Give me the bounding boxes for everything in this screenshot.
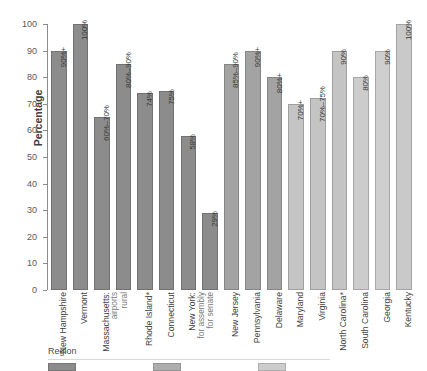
legend: Region: [48, 346, 348, 359]
y-axis-tick: 70: [43, 104, 47, 105]
x-axis-label: New Jersey: [231, 292, 240, 337]
legend-title: Region: [48, 346, 348, 356]
y-axis-tick: 60: [43, 130, 47, 131]
x-axis-label: Georgia: [383, 292, 392, 323]
bar-value-label: 70%–75%: [318, 87, 327, 123]
bar-value-label: 90%: [383, 49, 392, 65]
bar[interactable]: 90%+: [245, 51, 261, 290]
bar-value-label: 74%: [145, 91, 154, 107]
x-axis-label-slot: Georgia: [372, 292, 394, 356]
bar-value-label: 80%–90%: [124, 52, 133, 88]
y-axis-tick-label: 20: [27, 232, 37, 242]
bar-value-label: 80%: [361, 75, 370, 91]
bar-slot: 80%–90%: [113, 24, 135, 290]
legend-divider: [48, 359, 330, 360]
y-axis-tick-label: 60: [27, 125, 37, 135]
bar-slot: 58%: [178, 24, 200, 290]
y-axis-tick-label: 30: [27, 205, 37, 215]
bar[interactable]: 80%–90%: [116, 64, 132, 290]
bar-slot: 90%+: [242, 24, 264, 290]
bar[interactable]: 90%: [375, 51, 391, 290]
plot-area: 0102030405060708090100 90%+100%60%–70%80…: [47, 24, 415, 290]
bar[interactable]: 90%: [332, 51, 348, 290]
bar[interactable]: 80%+: [267, 77, 283, 290]
legend-item[interactable]: [153, 363, 258, 371]
y-axis-tick-label: 80: [27, 72, 37, 82]
bar[interactable]: 60%–70%: [94, 117, 110, 290]
x-axis-label: Connecticut: [167, 292, 176, 337]
legend-item[interactable]: [48, 363, 153, 371]
bar[interactable]: 75%: [159, 91, 175, 291]
bar[interactable]: 85%–90%: [224, 64, 240, 290]
x-axis-label: North Carolina*: [339, 292, 348, 351]
x-axis-label: Virginia: [318, 292, 327, 321]
bar-slot: 85%–90%: [221, 24, 243, 290]
bar[interactable]: 58%: [181, 136, 197, 290]
x-axis-label: Rhode Island*: [145, 292, 154, 346]
y-axis-tick-label: 50: [27, 152, 37, 162]
bar[interactable]: 29%: [202, 213, 218, 290]
bar-value-label: 90%+: [253, 46, 262, 66]
bar-value-label: 100%: [404, 20, 413, 40]
y-axis-tick-label: 90: [27, 46, 37, 56]
bar-slot: 80%: [350, 24, 372, 290]
legend-swatch: [48, 363, 76, 371]
x-axis-label: Maryland: [296, 292, 305, 327]
bar-slot: 74%: [134, 24, 156, 290]
bar-series: 90%+100%60%–70%80%–90%74%75%58%29%85%–90…: [48, 24, 415, 290]
bar-slot: 60%–70%: [91, 24, 113, 290]
x-axis-label-slot: South Carolina: [350, 292, 372, 356]
bar-value-label: 100%: [80, 20, 89, 40]
legend-items: [48, 363, 363, 371]
y-axis-tick-label: 40: [27, 179, 37, 189]
bar-slot: 70%+: [285, 24, 307, 290]
x-axis-label: Delaware: [275, 292, 284, 328]
bar-value-label: 90%+: [59, 46, 68, 66]
y-axis-tick: 100: [43, 24, 47, 25]
legend-swatch: [258, 363, 286, 371]
bar[interactable]: 90%+: [51, 51, 67, 290]
bar-slot: 90%: [372, 24, 394, 290]
legend-swatch: [153, 363, 181, 371]
y-axis-tick-label: 10: [27, 258, 37, 268]
bar-value-label: 80%+: [275, 73, 284, 93]
bar-slot: 90%+: [48, 24, 70, 290]
bar-slot: 90%: [329, 24, 351, 290]
legend-item[interactable]: [258, 363, 363, 371]
x-axis-label: Kentucky: [404, 292, 413, 327]
bar[interactable]: 100%: [73, 24, 89, 290]
y-axis-tick-label: 0: [32, 285, 37, 295]
bar-value-label: 29%: [210, 211, 219, 227]
y-axis-tick: 80: [43, 77, 47, 78]
bar-slot: 70%–75%: [307, 24, 329, 290]
bar-value-label: 85%–90%: [231, 52, 240, 88]
x-axis-label: Pennsylvania: [253, 292, 262, 343]
bar-slot: 75%: [156, 24, 178, 290]
x-axis-label-slot: Kentucky: [393, 292, 415, 356]
y-axis-tick: 0: [43, 290, 47, 291]
y-axis-tick: 20: [43, 237, 47, 238]
y-axis-tick-label: 100: [22, 19, 37, 29]
bar[interactable]: 74%: [137, 93, 153, 290]
y-axis-tick-label: 70: [27, 99, 37, 109]
x-axis-label: New York:: [188, 292, 197, 331]
bar[interactable]: 100%: [396, 24, 412, 290]
x-axis-label: South Carolina: [361, 292, 370, 349]
bar-slot: 80%+: [264, 24, 286, 290]
y-axis-tick: 90: [43, 51, 47, 52]
y-axis-tick: 40: [43, 184, 47, 185]
bar-value-label: 90%: [339, 49, 348, 65]
bar-value-label: 60%–70%: [102, 105, 111, 141]
y-axis-tick: 10: [43, 263, 47, 264]
bar-value-label: 75%: [167, 89, 176, 105]
bar-slot: 29%: [199, 24, 221, 290]
x-axis-label: Vermont: [80, 292, 89, 324]
bar[interactable]: 80%: [353, 77, 369, 290]
bar[interactable]: 70%+: [288, 104, 304, 290]
y-axis-tick: 50: [43, 157, 47, 158]
bar-value-label: 70%+: [296, 100, 305, 120]
bar-slot: 100%: [70, 24, 92, 290]
bar[interactable]: 70%–75%: [310, 98, 326, 290]
bar-slot: 100%: [393, 24, 415, 290]
